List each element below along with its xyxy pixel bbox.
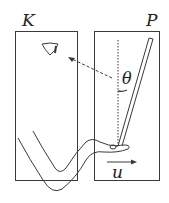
velocity-label: u <box>112 162 123 182</box>
tilted-rod <box>118 38 153 146</box>
line-of-sight-arrow <box>68 57 112 78</box>
frame-k-box <box>16 32 78 181</box>
angle-label: θ <box>122 69 132 88</box>
relativity-diagram: K P θ u <box>0 0 169 203</box>
frame-k-label: K <box>21 10 36 30</box>
frame-p-box <box>95 32 160 181</box>
eye-icon <box>42 43 58 55</box>
frame-p-label: P <box>145 10 158 30</box>
angle-arc <box>118 90 127 91</box>
